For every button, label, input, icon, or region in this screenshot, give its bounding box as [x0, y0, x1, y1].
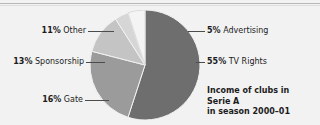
pie-svg — [90, 10, 200, 120]
leader-line-other — [88, 31, 114, 32]
pie-label-sponsorship: 13% Sponsorship — [0, 57, 84, 67]
pie-label-gate: 16% Gate — [0, 95, 83, 105]
pie-label-gate-cat: Gate — [64, 95, 83, 104]
chart-caption-line2: in season 2000–01 — [207, 107, 315, 118]
pie-graphic — [90, 10, 200, 120]
chart-caption-line1: Income of clubs in Serie A — [207, 86, 315, 107]
pie-label-sponsorship-cat: Sponsorship — [35, 57, 84, 66]
pie-chart-figure: 5% Advertising 55% TV Rights 11% Other 1… — [0, 0, 320, 125]
pie-label-sponsorship-pct: 13% — [13, 57, 32, 66]
pie-label-other-pct: 11% — [42, 26, 61, 35]
pie-label-advertising: 5% Advertising — [207, 26, 268, 36]
pie-label-other-cat: Other — [63, 26, 86, 35]
pie-label-gate-pct: 16% — [42, 95, 61, 104]
leader-line-gate — [85, 100, 109, 101]
leader-line-advertising — [188, 31, 205, 32]
pie-label-tv-rights: 55% TV Rights — [207, 57, 267, 67]
pie-label-advertising-cat: Advertising — [223, 26, 268, 35]
top-divider-rule-secondary — [0, 5, 320, 6]
top-divider-rule — [0, 3, 320, 4]
pie-label-other: 11% Other — [0, 26, 86, 36]
chart-caption: Income of clubs in Serie A in season 200… — [207, 86, 315, 118]
pie-label-advertising-pct: 5% — [207, 26, 221, 35]
pie-label-tv-rights-pct: 55% — [207, 57, 226, 66]
leader-line-tv-rights — [196, 62, 205, 63]
pie-label-tv-rights-cat: TV Rights — [229, 57, 267, 66]
leader-line-sponsorship — [86, 62, 105, 63]
